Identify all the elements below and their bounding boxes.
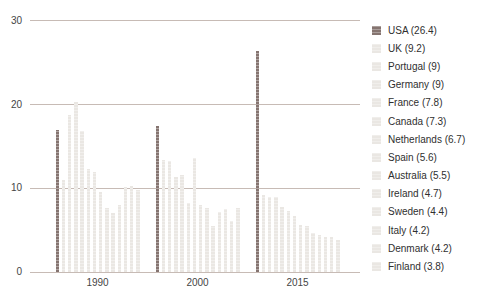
bar-chart: USA (26.4)UK (9.2)Portugal (9)Germany (9… [0, 0, 479, 296]
legend-label: Netherlands (6.7) [388, 134, 465, 145]
legend-label: Australia (5.5) [388, 170, 450, 181]
bar-denmark-2015 [330, 237, 334, 272]
legend-item-germany: Germany (9) [372, 76, 465, 94]
legend-item-spain: Spain (5.6) [372, 148, 465, 166]
bar-sweden-2015 [318, 235, 322, 272]
bar-finland-2000 [236, 208, 240, 272]
bar-uk-2015 [262, 195, 266, 272]
bar-australia-2015 [305, 226, 309, 272]
legend-item-australia: Australia (5.5) [372, 167, 465, 185]
bar-portugal-2015 [268, 197, 272, 272]
legend-item-ireland: Ireland (4.7) [372, 185, 465, 203]
bar-ireland-2000 [211, 226, 215, 272]
bar-australia-1990 [105, 208, 109, 272]
legend-swatch-icon [372, 26, 381, 35]
bar-canada-1990 [87, 169, 91, 272]
y-tick-label: 20 [0, 100, 22, 110]
bar-ireland-1990 [111, 213, 115, 272]
y-tick-label: 0 [0, 267, 22, 277]
legend-item-portugal: Portugal (9) [372, 57, 465, 75]
bar-usa-2000 [156, 126, 160, 272]
x-axis-label-1990: 1990 [76, 277, 120, 288]
bar-finland-2015 [336, 240, 340, 272]
legend-label: Germany (9) [388, 79, 444, 90]
legend-swatch-icon [372, 117, 381, 126]
legend-item-sweden: Sweden (4.4) [372, 203, 465, 221]
bar-spain-2015 [299, 225, 303, 272]
bar-canada-2015 [287, 211, 291, 272]
legend-swatch-icon [372, 262, 381, 271]
legend-label: Sweden (4.4) [388, 206, 447, 217]
bar-italy-2000 [224, 209, 228, 272]
y-tick-label: 30 [0, 16, 22, 26]
legend-swatch-icon [372, 244, 381, 253]
bar-sweden-1990 [118, 205, 122, 272]
legend-item-denmark: Denmark (4.2) [372, 239, 465, 257]
gridline-30 [30, 20, 360, 21]
bar-portugal-2000 [168, 161, 172, 272]
bar-italy-2015 [324, 237, 328, 272]
bar-netherlands-1990 [93, 172, 97, 272]
legend-item-france: France (7.8) [372, 94, 465, 112]
legend-label: USA (26.4) [388, 25, 437, 36]
legend-swatch-icon [372, 80, 381, 89]
legend-label: Denmark (4.2) [388, 243, 452, 254]
bar-spain-1990 [99, 192, 103, 272]
bar-uk-1990 [62, 180, 66, 272]
legend-swatch-icon [372, 189, 381, 198]
x-axis-label-2015: 2015 [276, 277, 320, 288]
bar-sweden-2000 [218, 212, 222, 272]
bar-germany-1990 [74, 102, 78, 272]
legend-label: France (7.8) [388, 97, 442, 108]
legend-item-italy: Italy (4.2) [372, 221, 465, 239]
legend-label: Portugal (9) [388, 61, 440, 72]
legend-label: Spain (5.6) [388, 152, 437, 163]
legend-item-canada: Canada (7.3) [372, 112, 465, 130]
bar-france-2015 [280, 207, 284, 272]
legend-swatch-icon [372, 44, 381, 53]
legend-swatch-icon [372, 62, 381, 71]
legend-label: Canada (7.3) [388, 116, 446, 127]
bar-usa-2015 [256, 51, 260, 272]
legend-item-usa: USA (26.4) [372, 21, 465, 39]
legend-swatch-icon [372, 171, 381, 180]
bar-canada-2000 [187, 203, 191, 272]
bar-ireland-2015 [311, 233, 315, 272]
bar-germany-2000 [174, 177, 178, 272]
legend-swatch-icon [372, 98, 381, 107]
bar-denmark-1990 [130, 186, 134, 272]
bar-portugal-1990 [68, 115, 72, 272]
bar-denmark-2000 [230, 221, 234, 272]
bar-finland-1990 [136, 190, 140, 272]
legend-swatch-icon [372, 207, 381, 216]
bar-netherlands-2000 [193, 158, 197, 272]
bar-italy-1990 [124, 187, 128, 272]
bar-australia-2000 [205, 208, 209, 272]
legend-item-finland: Finland (3.8) [372, 257, 465, 275]
legend-swatch-icon [372, 135, 381, 144]
legend-label: Ireland (4.7) [388, 188, 442, 199]
legend-swatch-icon [372, 153, 381, 162]
bar-germany-2015 [274, 197, 278, 272]
bar-spain-2000 [199, 205, 203, 272]
legend-swatch-icon [372, 226, 381, 235]
bar-france-1990 [80, 131, 84, 272]
legend-item-uk: UK (9.2) [372, 39, 465, 57]
legend-label: Finland (3.8) [388, 261, 444, 272]
gridline-20 [30, 104, 360, 105]
y-tick-label: 10 [0, 183, 22, 193]
x-axis-label-2000: 2000 [176, 277, 220, 288]
bar-netherlands-2015 [293, 216, 297, 272]
bar-usa-1990 [56, 130, 60, 272]
bar-uk-2000 [162, 160, 166, 272]
bar-france-2000 [180, 175, 184, 272]
chart-legend: USA (26.4)UK (9.2)Portugal (9)Germany (9… [372, 21, 465, 276]
legend-label: UK (9.2) [388, 43, 425, 54]
legend-label: Italy (4.2) [388, 225, 430, 236]
legend-item-netherlands: Netherlands (6.7) [372, 130, 465, 148]
